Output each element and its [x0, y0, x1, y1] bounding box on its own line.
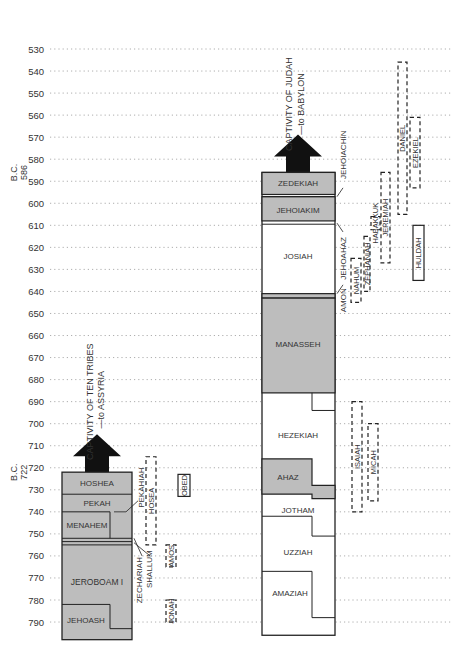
tick-label: 760	[28, 550, 44, 561]
tick-labels: 5305405505605705805906006106206306406506…	[28, 44, 44, 628]
israel-captivity-arrow	[73, 434, 121, 472]
king-josiah: JOSIAH	[284, 252, 313, 261]
tick-label: 710	[28, 440, 44, 451]
prophet-huldah: HULDAH	[415, 237, 424, 268]
king-menahem: MENAHEM	[67, 521, 108, 530]
king-hoshea: HOSHEA	[80, 479, 114, 488]
king-pekah: PEKAH	[83, 499, 110, 508]
tick-label: 650	[28, 308, 44, 319]
king-zechariah: ZECHARIAH	[135, 557, 144, 603]
tick-label: 560	[28, 110, 44, 121]
tick-label: 720	[28, 462, 44, 473]
tick-label: 600	[28, 198, 44, 209]
king-amon: AMON	[339, 288, 348, 312]
tick-label: 730	[28, 484, 44, 495]
king-zedekiah: ZEDEKIAH	[278, 179, 318, 188]
tick-label: 670	[28, 352, 44, 363]
israel-column: CAPTIVITY OF TEN TRIBES—to ASSYRIAHOSHEA…	[62, 343, 132, 639]
bc-marker-year: 722	[19, 465, 29, 480]
king-jehoahaz: JEHOAHAZ	[339, 237, 348, 280]
prophet-isaiah: ISAIAH	[353, 444, 362, 469]
tick-label: 540	[28, 66, 44, 77]
israel-bar	[62, 472, 132, 640]
prophet-jonah: JONAH	[167, 598, 176, 623]
prophet-micah: MICAH	[369, 450, 378, 474]
king-jehoiakim: JEHOIAKIM	[276, 206, 319, 215]
israel-captivity-text: CAPTIVITY OF TEN TRIBES	[85, 343, 95, 460]
tick-label: 570	[28, 132, 44, 143]
timeline-chart: 5305405505605705805906006106206306406506…	[0, 0, 452, 671]
judah-captivity-text: CAPTIVITY OF JUDAH	[284, 57, 294, 151]
tick-label: 680	[28, 374, 44, 385]
king-jeroboam: JEROBOAM I	[71, 577, 123, 587]
tick-label: 700	[28, 418, 44, 429]
king-pekahiah: PEKAHIAH	[137, 467, 146, 508]
bc-marker-label: B.C.	[9, 463, 19, 481]
tick-label: 740	[28, 506, 44, 517]
tick-label: 690	[28, 396, 44, 407]
tick-label: 580	[28, 154, 44, 165]
judah-captivity-subtext: —to BABYLON	[296, 73, 306, 135]
king-jotham: JOTHAM	[282, 506, 315, 515]
prophet-ezekiel: EZEKIEL	[411, 137, 420, 168]
zechariah-leader	[134, 538, 142, 556]
king-jehoiachin: JEHOIACHIN	[339, 130, 348, 179]
prophet-jeremiah: JEREMIAH	[382, 199, 391, 237]
prophet-habakkuk: HABAKKUK	[372, 203, 381, 244]
tick-label: 750	[28, 528, 44, 539]
tick-label: 630	[28, 264, 44, 275]
king-amaziah: AMAZIAH	[272, 589, 308, 598]
king-ahaz: AHAZ	[277, 473, 298, 482]
bc-marker-year: 586	[19, 165, 29, 180]
jehoahaz-leader	[337, 223, 343, 232]
king-block-amon	[262, 294, 335, 298]
prophet-hosea: HOSEA	[147, 488, 156, 514]
tick-label: 790	[28, 617, 44, 628]
judah-bar	[262, 172, 335, 635]
tick-label: 780	[28, 595, 44, 606]
tick-label: 610	[28, 220, 44, 231]
jehoiachin-leader	[337, 188, 343, 197]
king-jehoash: JEHOASH	[67, 616, 105, 625]
prophet-amos: AMOS	[167, 545, 176, 567]
prophet-zephaniah: ZEPHANIAH	[363, 242, 372, 285]
tick-label: 620	[28, 242, 44, 253]
tick-label: 640	[28, 286, 44, 297]
king-hezekiah: HEZEKIAH	[278, 431, 318, 440]
tick-label: 530	[28, 44, 44, 55]
king-manasseh: MANASSEH	[276, 340, 321, 349]
israel-captivity-subtext: —to ASSYRIA	[96, 371, 106, 429]
tick-label: 770	[28, 572, 44, 583]
bc-marker-label: B.C.	[9, 164, 19, 182]
tick-label: 590	[28, 176, 44, 187]
prophet-nahum: NAHUM	[352, 267, 361, 295]
king-shallum: SHALLUM	[145, 550, 154, 588]
judah-captivity-arrow	[274, 134, 322, 172]
king-uzziah: UZZIAH	[284, 548, 313, 557]
tick-label: 550	[28, 88, 44, 99]
axis-markers: B.C.586B.C.722	[9, 164, 29, 481]
prophet-daniel: DANIEL	[399, 125, 408, 152]
prophet-obed: OBED	[180, 474, 189, 496]
tick-label: 660	[28, 330, 44, 341]
judah-column: CAPTIVITY OF JUDAH—to BABYLONZEDEKIAHJEH…	[262, 57, 335, 635]
